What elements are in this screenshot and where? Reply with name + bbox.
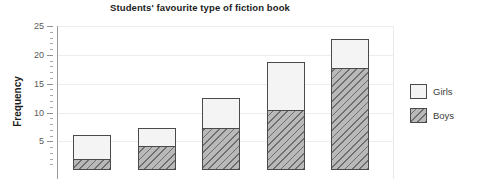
legend-label-boys: Boys bbox=[433, 110, 454, 121]
y-minor-tick-6 bbox=[50, 136, 53, 137]
y-tick-label-25: 25 bbox=[34, 21, 44, 31]
y-major-tick-5 bbox=[47, 141, 53, 142]
chart-title: Students' favourite type of fiction book bbox=[0, 2, 400, 13]
bar-segment-girls[interactable] bbox=[267, 62, 305, 111]
y-minor-tick-3 bbox=[50, 153, 53, 154]
legend-swatch-girls-icon bbox=[410, 84, 427, 99]
bar-segment-boys[interactable] bbox=[267, 110, 305, 171]
y-minor-tick-8 bbox=[50, 124, 53, 125]
legend: Girls Boys bbox=[410, 84, 454, 132]
bar-segment-girls[interactable] bbox=[331, 39, 369, 69]
y-tick-label-15: 15 bbox=[34, 79, 44, 89]
y-tick-label-5: 5 bbox=[39, 136, 44, 146]
y-minor-tick-2 bbox=[50, 159, 53, 160]
y-major-tick-10 bbox=[47, 113, 53, 114]
y-minor-tick-9 bbox=[50, 118, 53, 119]
y-minor-tick-14 bbox=[50, 89, 53, 90]
gridline-25 bbox=[58, 26, 394, 27]
y-axis: Frequency 252015105 bbox=[0, 0, 57, 179]
y-axis-title: Frequency bbox=[12, 76, 23, 127]
bar-segment-girls[interactable] bbox=[202, 98, 240, 129]
y-major-tick-25 bbox=[47, 26, 53, 27]
bar-segment-girls[interactable] bbox=[73, 135, 111, 160]
bar-group[interactable] bbox=[138, 128, 176, 170]
bar-segment-boys[interactable] bbox=[138, 146, 176, 170]
y-minor-tick-19 bbox=[50, 61, 53, 62]
y-minor-tick-13 bbox=[50, 95, 53, 96]
bar-segment-girls[interactable] bbox=[138, 128, 176, 147]
bar-segment-boys[interactable] bbox=[331, 68, 369, 171]
y-minor-tick-23 bbox=[50, 38, 53, 39]
y-minor-tick-4 bbox=[50, 147, 53, 148]
legend-item-girls: Girls bbox=[410, 84, 454, 99]
y-minor-tick-11 bbox=[50, 107, 53, 108]
bar-group[interactable] bbox=[202, 98, 240, 170]
y-minor-tick-12 bbox=[50, 101, 53, 102]
bar-group[interactable] bbox=[267, 62, 305, 170]
y-minor-tick-17 bbox=[50, 72, 53, 73]
legend-label-girls: Girls bbox=[433, 86, 453, 97]
y-minor-tick-24 bbox=[50, 32, 53, 33]
plot-area bbox=[57, 26, 394, 179]
y-minor-tick-1 bbox=[50, 164, 53, 165]
y-major-tick-20 bbox=[47, 55, 53, 56]
y-major-tick-15 bbox=[47, 84, 53, 85]
bar-group[interactable] bbox=[331, 39, 369, 171]
legend-item-boys: Boys bbox=[410, 108, 454, 123]
bar-segment-boys[interactable] bbox=[202, 128, 240, 171]
y-tick-label-10: 10 bbox=[34, 108, 44, 118]
y-tick-label-20: 20 bbox=[34, 50, 44, 60]
y-minor-tick-7 bbox=[50, 130, 53, 131]
bar-segment-boys[interactable] bbox=[73, 159, 111, 171]
chart-root: Students' favourite type of fiction book… bbox=[0, 0, 486, 179]
y-minor-tick-22 bbox=[50, 43, 53, 44]
bar-group[interactable] bbox=[73, 135, 111, 170]
y-minor-tick-21 bbox=[50, 49, 53, 50]
y-minor-tick-16 bbox=[50, 78, 53, 79]
y-minor-tick-18 bbox=[50, 66, 53, 67]
legend-swatch-boys-icon bbox=[410, 108, 427, 123]
plot-border-right bbox=[393, 26, 394, 179]
